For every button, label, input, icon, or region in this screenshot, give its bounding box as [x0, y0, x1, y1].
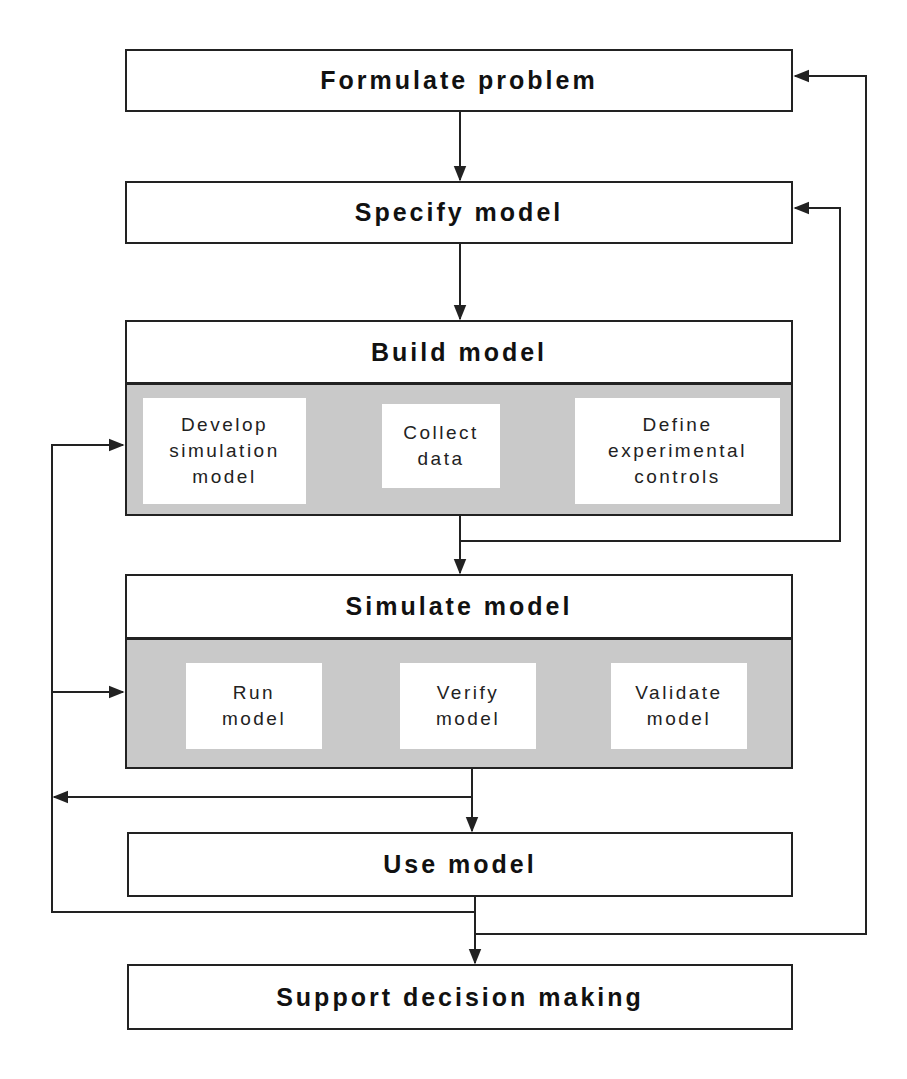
step-build-model: Build model Develop simulation model Col…	[125, 320, 793, 516]
step-label: Formulate problem	[320, 66, 597, 95]
connector-arrows	[0, 0, 907, 1079]
substep-collect-data: Collect data	[382, 404, 500, 488]
substep-define-experimental-controls: Define experimental controls	[575, 398, 780, 504]
substep-run-model: Run model	[186, 663, 322, 749]
step-label: Support decision making	[276, 983, 644, 1012]
substep-validate-model: Validate model	[611, 663, 747, 749]
step-specify-model: Specify model	[125, 181, 793, 244]
step-label: Simulate model	[346, 592, 573, 621]
substep-develop-simulation-model: Develop simulation model	[143, 398, 306, 504]
step-formulate-problem: Formulate problem	[125, 49, 793, 112]
step-use-model: Use model	[127, 832, 793, 897]
build-header: Build model	[127, 322, 791, 385]
step-label: Specify model	[355, 198, 564, 227]
simulate-header: Simulate model	[127, 576, 791, 640]
step-label: Build model	[371, 338, 547, 367]
substep-verify-model: Verify model	[400, 663, 536, 749]
step-simulate-model: Simulate model Run model Verify model Va…	[125, 574, 793, 769]
step-label: Use model	[383, 850, 536, 879]
step-support-decision-making: Support decision making	[127, 964, 793, 1030]
